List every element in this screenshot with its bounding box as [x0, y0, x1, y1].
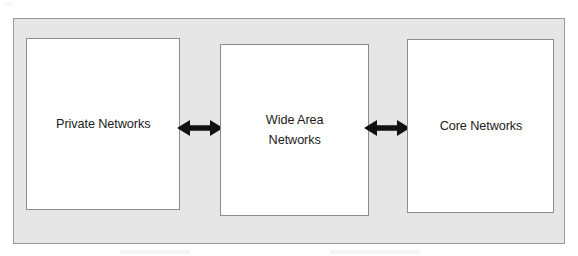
- double-headed-arrow-icon: [177, 116, 223, 140]
- scan-artifact: [4, 2, 13, 7]
- diagram-canvas: Private Networks Wide Area Networks Core…: [0, 0, 578, 256]
- connector-private-networks-to-wide-area-networks[interactable]: [177, 116, 223, 140]
- node-label-core-networks: Core Networks: [439, 116, 522, 136]
- node-box-core-networks[interactable]: Core Networks: [407, 39, 554, 213]
- double-headed-arrow-icon: [364, 116, 410, 140]
- connector-wide-area-networks-to-core-networks[interactable]: [364, 116, 410, 140]
- node-box-private-networks[interactable]: Private Networks: [26, 38, 180, 210]
- node-label-wide-area-networks: Wide Area Networks: [266, 110, 324, 149]
- scan-artifact: [120, 250, 190, 254]
- node-label-private-networks: Private Networks: [56, 114, 150, 134]
- node-box-wide-area-networks[interactable]: Wide Area Networks: [220, 44, 369, 216]
- scan-artifact: [330, 250, 420, 254]
